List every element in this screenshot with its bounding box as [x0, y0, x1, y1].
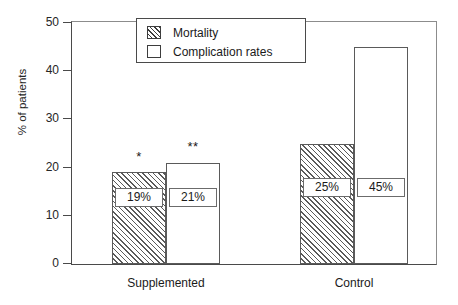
legend-swatch-white-icon — [147, 45, 161, 58]
legend-item-complication-rates: Complication rates — [147, 42, 305, 61]
x-group-label-control: Control — [299, 276, 409, 290]
value-label-control-complication: 45% — [357, 178, 405, 197]
y-tick-label-30: 30 — [46, 111, 59, 125]
bar-supplemented-complication — [166, 163, 220, 264]
value-label-supplemented-complication: 21% — [169, 188, 217, 207]
y-tick-label-0: 0 — [52, 256, 59, 270]
y-tick-0: 0 — [63, 263, 72, 264]
y-tick-40: 40 — [63, 70, 72, 71]
y-tick-30: 30 — [63, 118, 72, 119]
y-tick-label-50: 50 — [46, 15, 59, 29]
chart-figure: % of patients 50 40 30 20 10 0 19% 21% 2… — [0, 0, 458, 305]
y-tick-label-10: 10 — [46, 208, 59, 222]
value-label-supplemented-mortality: 19% — [115, 188, 163, 207]
legend-label-complication-rates: Complication rates — [173, 45, 272, 59]
x-group-label-supplemented: Supplemented — [111, 276, 221, 290]
y-tick-20: 20 — [63, 167, 72, 168]
bar-control-complication — [354, 47, 408, 264]
legend-label-mortality: Mortality — [173, 26, 218, 40]
significance-marker-double: ** — [166, 141, 220, 153]
bar-control-mortality — [300, 144, 354, 265]
y-tick-10: 10 — [63, 215, 72, 216]
y-tick-label-40: 40 — [46, 63, 59, 77]
value-label-control-mortality: 25% — [303, 178, 351, 197]
chart-legend: Mortality Complication rates — [136, 18, 306, 63]
y-tick-50: 50 — [63, 22, 72, 23]
significance-marker-single: * — [112, 151, 166, 163]
bar-supplemented-mortality — [112, 172, 166, 264]
y-axis-title: % of patients — [16, 32, 28, 172]
y-tick-label-20: 20 — [46, 160, 59, 174]
legend-item-mortality: Mortality — [147, 23, 305, 42]
legend-swatch-hatched-icon — [147, 26, 161, 39]
